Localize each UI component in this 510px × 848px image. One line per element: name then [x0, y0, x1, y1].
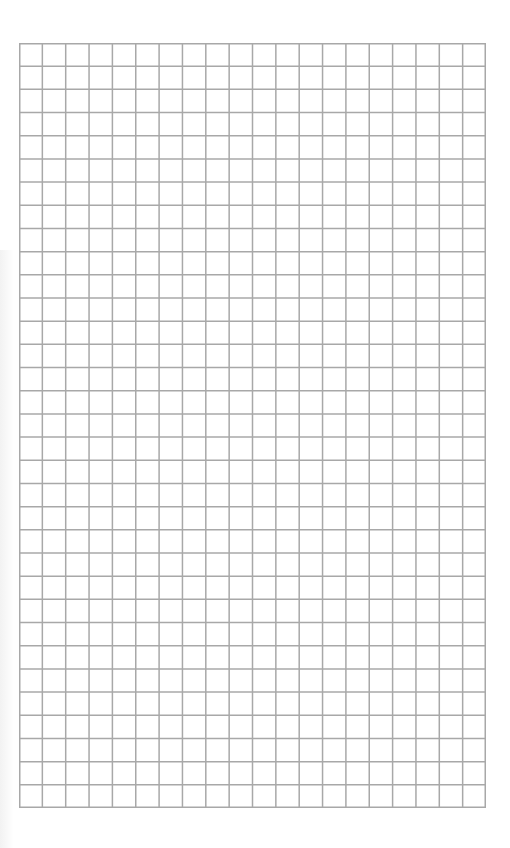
grid-lines	[19, 43, 486, 808]
graph-paper-grid	[19, 43, 486, 808]
page-edge-shadow	[0, 250, 14, 848]
